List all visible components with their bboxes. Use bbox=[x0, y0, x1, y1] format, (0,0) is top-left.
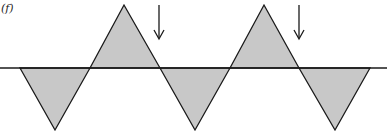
lobe-down-3 bbox=[299, 68, 370, 130]
lobe-down-1 bbox=[20, 68, 90, 130]
arrow-down-icon bbox=[154, 5, 164, 39]
triangle-wave-diagram bbox=[0, 0, 387, 135]
lobe-down-2 bbox=[160, 68, 230, 130]
lobe-up-1 bbox=[90, 5, 160, 68]
arrow-down-icon bbox=[294, 5, 304, 39]
lobe-up-2 bbox=[230, 5, 299, 68]
